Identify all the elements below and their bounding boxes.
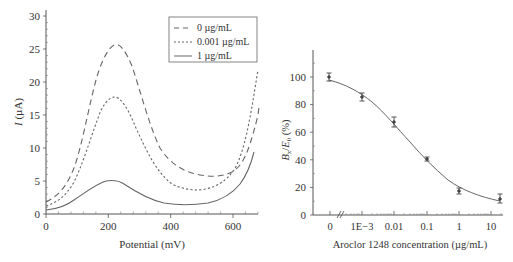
left-y-tick-label: 30 [29,10,41,22]
figure: 0 5 10 15 20 25 30 0 200 400 600 [0,0,513,262]
right-y-tick-label: 0 [301,209,307,221]
left-y-tick-label: 0 [35,208,41,220]
right-x-tick-label: 10 [486,221,497,232]
right-x-axis-label: Aroclor 1248 concentration (µg/mL) [333,239,488,251]
legend-label: 0.001 µg/mL [197,36,249,47]
left-y-axis-label: I (µA) [12,98,25,127]
right-y-tick-label: 60 [295,126,307,138]
right-y-tick-label: 20 [295,181,307,193]
left-y-tick-label: 25 [29,43,41,55]
legend-label: 1 µg/mL [197,50,232,61]
left-y-tick-label: 15 [29,109,41,121]
legend-label: 0 µg/mL [197,22,232,33]
left-x-tick-label: 400 [162,220,179,232]
right-x-ticks: 0 1E−3 0.01 0.1 1 10 [327,211,501,232]
left-legend: 0 µg/mL 0.001 µg/mL 1 µg/mL [169,17,257,62]
data-point [327,73,332,81]
right-x-tick-label: 0 [327,221,332,232]
left-x-tick-label: 600 [225,220,242,232]
left-y-ticks: 0 5 10 15 20 25 30 [29,10,48,220]
data-point [498,194,503,203]
right-y-tick-label: 100 [290,71,307,83]
curve-0-ug [46,44,259,202]
right-y-axis-label: Bx/E0 (%) [280,119,293,161]
left-x-ticks: 0 200 400 600 [43,212,258,233]
left-x-tick-label: 0 [43,220,49,232]
right-x-tick-label: 1E−3 [351,221,374,232]
data-point [360,93,365,101]
right-x-tick-label: 0.01 [385,221,403,232]
curve-1-ug [46,152,254,210]
data-point [457,188,462,194]
left-y-tick-label: 20 [29,76,41,88]
right-y-tick-label: 40 [295,154,307,166]
right-chart: 0 20 40 60 80 100 0 1E−3 0 [280,50,503,251]
left-y-tick-label: 5 [35,175,41,187]
right-y-ticks: 0 20 40 60 80 100 [290,63,316,221]
right-x-tick-label: 1 [456,221,461,232]
left-x-axis-label: Potential (mV) [119,238,185,251]
sigmoid-fit-curve [329,80,500,201]
left-chart: 0 5 10 15 20 25 30 0 200 400 600 [12,10,259,251]
curve-0001-ug [46,70,258,206]
right-x-tick-label: 0.1 [420,221,433,232]
data-points [327,73,503,203]
left-y-tick-label: 10 [29,142,41,154]
left-x-tick-label: 200 [100,220,117,232]
right-y-tick-label: 80 [295,98,307,110]
